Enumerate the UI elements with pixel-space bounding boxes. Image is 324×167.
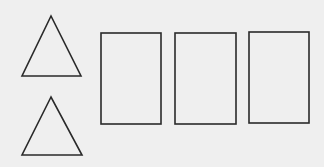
rectangle-3 <box>249 32 309 123</box>
rectangle-2 <box>175 33 236 124</box>
triangle-bottom <box>22 97 82 155</box>
rectangle-1 <box>101 33 161 124</box>
shapes-diagram <box>0 0 324 167</box>
triangle-top <box>22 16 81 76</box>
